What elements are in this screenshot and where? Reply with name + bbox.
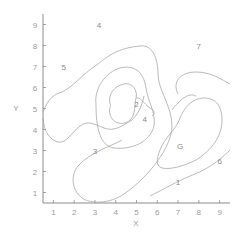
- x-tick-label: 5: [134, 208, 139, 217]
- y-tick-label: 2: [33, 168, 38, 177]
- y-axis-label: Y: [13, 104, 19, 113]
- contour-label: 5: [62, 63, 67, 72]
- x-tick-label: 2: [72, 208, 77, 217]
- contour-lines: [43, 46, 230, 202]
- x-tick-label: 6: [155, 208, 160, 217]
- x-axis-label: X: [133, 219, 139, 228]
- contour-label: 4: [97, 21, 102, 30]
- contour-label: 4: [143, 115, 148, 124]
- x-tick-label: 1: [51, 208, 56, 217]
- contour-label: 1: [176, 178, 181, 187]
- y-tick-label: 6: [33, 84, 38, 93]
- x-tick-label: 3: [93, 208, 98, 217]
- contour-label: G: [177, 142, 183, 151]
- contour-plot: 123456789 123456789 X Y 54324761G: [0, 0, 245, 239]
- y-tick-label: 7: [33, 63, 38, 72]
- x-tick-label: 4: [113, 208, 118, 217]
- contour-label: 3: [93, 147, 98, 156]
- contour-label: 7: [197, 42, 202, 51]
- x-tick-label: 8: [197, 208, 202, 217]
- y-tick-label: 3: [33, 147, 38, 156]
- x-tick-label: 9: [217, 208, 222, 217]
- y-tick-label: 9: [33, 21, 38, 30]
- y-tick-label: 1: [33, 189, 38, 198]
- x-tick-label: 7: [176, 208, 181, 217]
- y-tick-label: 5: [33, 105, 38, 114]
- y-tick-label: 4: [33, 126, 38, 135]
- y-tick-label: 8: [33, 42, 38, 51]
- contour-label: 6: [217, 157, 222, 166]
- contour-label: 2: [134, 100, 139, 109]
